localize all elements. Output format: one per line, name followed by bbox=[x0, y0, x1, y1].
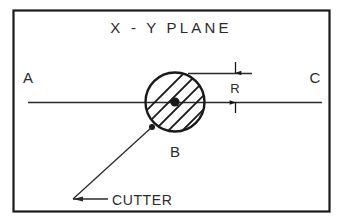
label-point-a: A bbox=[23, 69, 33, 86]
label-point-c: C bbox=[310, 69, 321, 86]
diagram-canvas: X - Y PLANE A B C R CUTTER bbox=[0, 0, 342, 220]
center-point-dot bbox=[170, 97, 179, 106]
label-point-b: B bbox=[170, 143, 180, 160]
xy-plane-diagram: X - Y PLANE A B C R CUTTER bbox=[0, 0, 342, 220]
page-title: X - Y PLANE bbox=[110, 19, 231, 36]
drawing-frame bbox=[14, 11, 330, 212]
label-radius-dimension: R bbox=[230, 81, 239, 96]
label-cutter-note: CUTTER bbox=[112, 192, 172, 208]
